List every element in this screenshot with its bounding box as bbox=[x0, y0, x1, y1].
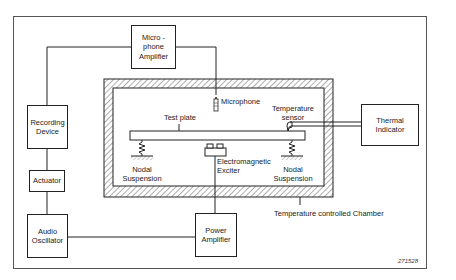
figure-code: 271528 bbox=[398, 258, 418, 264]
microphone-label: Microphone bbox=[221, 97, 260, 106]
microphone-amplifier-block: Micro - phone Amplifier bbox=[131, 25, 176, 69]
exciter-label: Electromagnetic Exciter bbox=[217, 157, 271, 175]
nodal-right-line-1: Nodal bbox=[283, 165, 303, 174]
power-amp-line-2: Amplifier bbox=[201, 235, 230, 245]
exciter-line-2: Exciter bbox=[217, 166, 240, 175]
mic-amp-line-3: Amplifier bbox=[139, 52, 168, 62]
wires bbox=[47, 47, 300, 237]
audio-osc-line-1: Audio bbox=[32, 227, 63, 237]
power-amp-line-1: Power bbox=[201, 226, 230, 236]
spring-right-icon bbox=[281, 140, 303, 160]
mic-amp-line-2: phone bbox=[139, 42, 168, 52]
recording-line-2: Device bbox=[30, 127, 64, 137]
mic-amp-line-1: Micro - bbox=[139, 33, 168, 43]
chamber-label: Temperature controlled Chamber bbox=[274, 209, 384, 218]
spring-left-icon bbox=[131, 140, 153, 160]
thermal-line-1: Thermal bbox=[376, 116, 405, 126]
nodal-left-line-2: Suspension bbox=[122, 174, 161, 183]
actuator-block: Actuator bbox=[29, 170, 65, 192]
nodal-left-line-1: Nodal bbox=[132, 165, 152, 174]
thermal-line-2: Indicator bbox=[376, 125, 405, 135]
microphone-icon bbox=[214, 97, 218, 111]
test-plate-label: Test plate bbox=[150, 113, 210, 122]
audio-oscillator-block: Audio Oscillator bbox=[27, 214, 68, 258]
electromagnetic-exciter-icon bbox=[205, 144, 226, 156]
exciter-line-1: Electromagnetic bbox=[217, 157, 271, 166]
test-plate bbox=[130, 131, 305, 140]
power-amplifier-block: Power Amplifier bbox=[195, 213, 237, 257]
nodal-right-line-2: Suspension bbox=[273, 174, 312, 183]
temp-sensor-line-1: Temperature bbox=[272, 104, 314, 113]
nodal-suspension-left-label: Nodal Suspension bbox=[117, 165, 167, 183]
temp-sensor-line-2: sensor bbox=[282, 113, 305, 122]
recording-line-1: Recording bbox=[30, 118, 64, 128]
temperature-sensor-label: Temperature sensor bbox=[268, 104, 318, 122]
actuator-label: Actuator bbox=[33, 176, 61, 186]
audio-osc-line-2: Oscillator bbox=[32, 236, 63, 246]
thermal-indicator-block: Thermal Indicator bbox=[361, 104, 419, 146]
nodal-suspension-right-label: Nodal Suspension bbox=[268, 165, 318, 183]
recording-device-block: Recording Device bbox=[27, 105, 68, 149]
